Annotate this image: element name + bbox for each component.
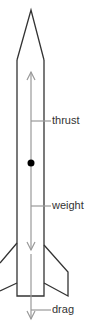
drag-label: drag bbox=[52, 303, 74, 315]
rocket-left-fin bbox=[0, 243, 17, 291]
rocket-force-diagram bbox=[0, 0, 86, 321]
weight-label: weight bbox=[52, 199, 84, 211]
rocket-right-fin bbox=[44, 245, 68, 296]
thrust-label: thrust bbox=[52, 114, 80, 126]
force-arrows bbox=[27, 72, 51, 319]
rocket-outline bbox=[0, 10, 68, 296]
rocket-nose-cone bbox=[17, 10, 44, 60]
center-of-mass-dot bbox=[28, 160, 35, 167]
